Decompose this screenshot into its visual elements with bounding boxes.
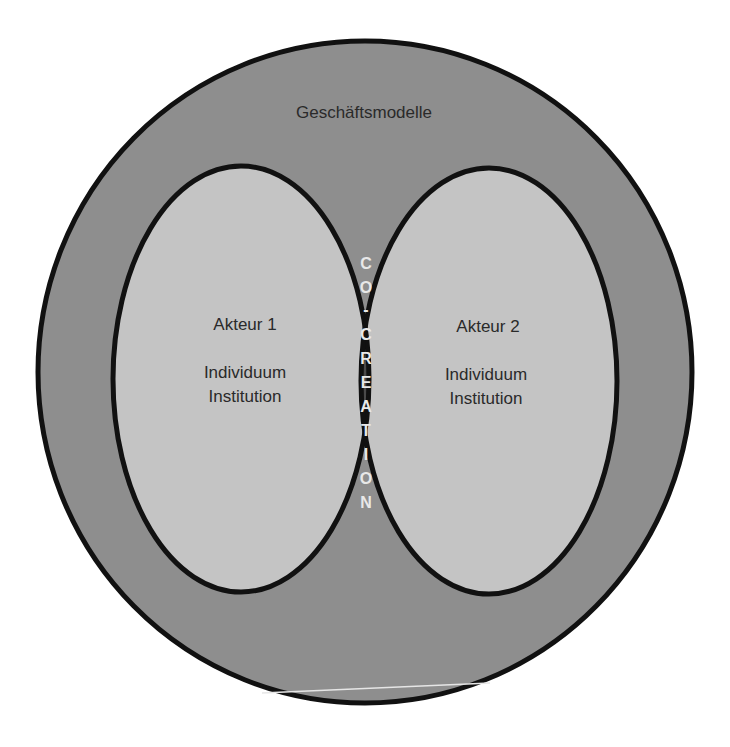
co-creation-letter: -: [363, 301, 368, 318]
co-creation-letter: C: [360, 326, 372, 343]
co-creation-letter: N: [360, 494, 372, 511]
co-creation-letter: I: [364, 446, 368, 463]
co-creation-venn-diagram: Geschäftsmodelle Akteur 1 Individuum Ins…: [0, 0, 730, 747]
co-creation-letter: C: [360, 255, 372, 272]
co-creation-letter: O: [360, 279, 372, 296]
actor-1-title: Akteur 1: [213, 315, 276, 334]
actor-1-line-individual: Individuum: [204, 363, 286, 382]
co-creation-label: C O - C R E A T I O N: [360, 255, 372, 511]
co-creation-letter: R: [360, 350, 372, 367]
co-creation-letter: O: [360, 470, 372, 487]
co-creation-letter: E: [361, 374, 372, 391]
business-models-label: Geschäftsmodelle: [296, 103, 432, 122]
co-creation-letter: A: [360, 398, 372, 415]
actor-2-line-institution: Institution: [450, 389, 523, 408]
actor-1-line-institution: Institution: [209, 387, 282, 406]
actor-2-title: Akteur 2: [456, 317, 519, 336]
actor-2-line-individual: Individuum: [445, 365, 527, 384]
co-creation-letter: T: [361, 422, 371, 439]
